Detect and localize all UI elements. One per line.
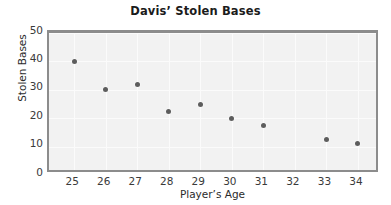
scatter-chart: Davis’ Stolen Bases 01020304050 Stolen B… xyxy=(0,0,391,205)
gridline-horizontal xyxy=(49,33,376,34)
y-axis-tick-label: 10 xyxy=(3,138,43,149)
gridline-vertical xyxy=(137,33,138,170)
x-axis-tick-label: 31 xyxy=(246,175,276,187)
x-axis-tick-label: 33 xyxy=(309,175,339,187)
data-point xyxy=(72,59,77,64)
data-point xyxy=(166,109,171,114)
plot-inner xyxy=(49,33,376,170)
x-axis-tick-label: 29 xyxy=(183,175,213,187)
x-axis-tick-labels: 25262728293031323334 xyxy=(47,175,378,189)
x-axis-tick-label: 34 xyxy=(341,175,371,187)
gridline-vertical xyxy=(263,33,264,170)
x-axis-tick-label: 28 xyxy=(152,175,182,187)
data-point xyxy=(261,123,266,128)
x-axis-tick-label: 25 xyxy=(57,175,87,187)
data-point xyxy=(198,102,203,107)
gridline-vertical xyxy=(232,33,233,170)
gridline-horizontal xyxy=(49,118,376,119)
y-axis-title: Stolen Bases xyxy=(16,8,28,128)
x-axis-tick-label: 26 xyxy=(89,175,119,187)
x-axis-tick-label: 32 xyxy=(278,175,308,187)
x-axis-tick-label: 27 xyxy=(120,175,150,187)
gridline-horizontal xyxy=(49,90,376,91)
plot-area xyxy=(47,30,378,172)
gridline-vertical xyxy=(169,33,170,170)
gridline-vertical xyxy=(358,33,359,170)
gridline-horizontal xyxy=(49,61,376,62)
chart-title: Davis’ Stolen Bases xyxy=(0,4,391,18)
x-axis-title: Player’s Age xyxy=(47,188,378,200)
x-axis-tick-label: 30 xyxy=(215,175,245,187)
data-point xyxy=(324,137,329,142)
gridline-horizontal xyxy=(49,147,376,148)
gridline-vertical xyxy=(74,33,75,170)
data-point xyxy=(103,87,108,92)
gridline-vertical xyxy=(106,33,107,170)
data-point xyxy=(355,141,360,146)
gridline-vertical xyxy=(326,33,327,170)
data-point xyxy=(135,82,140,87)
gridline-vertical xyxy=(295,33,296,170)
y-axis-tick-label: 0 xyxy=(3,167,43,178)
data-point xyxy=(229,116,234,121)
